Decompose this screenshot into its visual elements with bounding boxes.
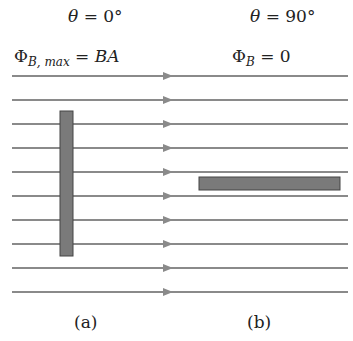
- arrowhead-icon: [163, 216, 173, 224]
- arrowhead-icon: [163, 240, 173, 248]
- arrowhead-icon: [163, 168, 173, 176]
- arrowhead-icon: [163, 72, 173, 80]
- arrowhead-icon: [163, 288, 173, 296]
- arrowhead-icon: [163, 144, 173, 152]
- arrowhead-icon: [163, 192, 173, 200]
- flux-zero-label: ΦB = 0: [232, 46, 291, 69]
- plate-parallel: [199, 177, 340, 190]
- arrowhead-icon: [163, 120, 173, 128]
- arrowhead-icon: [163, 96, 173, 104]
- theta-b-label: θ = 90°: [250, 6, 315, 26]
- arrowhead-icon: [163, 264, 173, 272]
- flux-max-label: ΦB, max = BA: [14, 46, 120, 69]
- plate-perpendicular: [60, 111, 73, 256]
- panel-a-label: (a): [74, 312, 97, 332]
- theta-a-label: θ = 0°: [68, 6, 123, 26]
- panel-b-label: (b): [247, 312, 271, 332]
